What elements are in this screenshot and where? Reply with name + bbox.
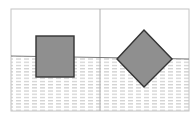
floating-objects-diagram xyxy=(0,0,196,119)
floating-square-upright xyxy=(36,36,74,77)
